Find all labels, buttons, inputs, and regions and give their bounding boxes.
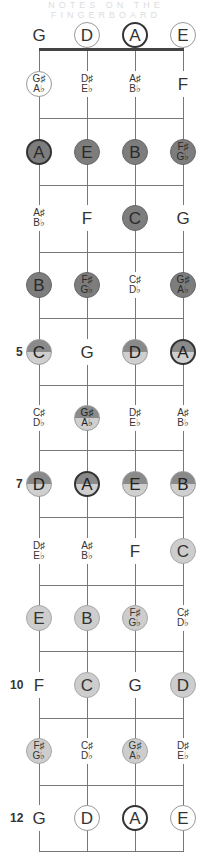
note-marker: A♯B♭ (170, 405, 196, 431)
note-marker: E (122, 471, 148, 497)
note-marker: D♯E♭ (122, 405, 148, 431)
note-marker: A♯B♭ (122, 71, 148, 97)
note-marker: D (170, 672, 196, 698)
accidental-label: G♯A♭ (81, 408, 94, 428)
note-marker: F♯G♭ (122, 605, 148, 631)
note-marker: G♯A♭ (122, 738, 148, 764)
fret-line-3 (39, 252, 184, 253)
flat-name: A♭ (81, 418, 93, 428)
note-marker: F (74, 205, 100, 231)
note-marker: B (74, 605, 100, 631)
fret-number-12: 12 (10, 811, 23, 825)
flat-name: E♭ (81, 84, 93, 94)
accidental-label: G♯A♭ (33, 74, 46, 94)
fret-number-7: 7 (16, 477, 23, 491)
accidental-label: D♯E♭ (81, 74, 93, 94)
note-marker: C♯D♭ (26, 405, 52, 431)
accidental-label: F♯G♭ (177, 142, 190, 162)
note-marker: G (74, 339, 100, 365)
accidental-label: F♯G♭ (33, 741, 46, 761)
note-marker: G (122, 672, 148, 698)
accidental-label: A♯B♭ (81, 541, 93, 561)
note-marker: D (122, 339, 148, 365)
fret-line-7 (39, 517, 184, 518)
accidental-label: A♯B♭ (129, 74, 141, 94)
note-marker: E (74, 139, 100, 165)
flat-name: A♭ (33, 84, 45, 94)
note-marker: E (170, 805, 196, 831)
flat-name: E♭ (33, 551, 45, 561)
note-marker: F♯G♭ (74, 272, 100, 298)
fret-line-11 (39, 785, 184, 786)
fret-line-4 (39, 318, 184, 319)
accidental-label: D♯E♭ (33, 541, 45, 561)
accidental-label: C♯D♭ (129, 275, 141, 295)
accidental-label: C♯D♭ (177, 608, 189, 628)
note-marker: C (26, 339, 52, 365)
note-marker: C♯D♭ (74, 738, 100, 764)
note-marker: C (122, 205, 148, 231)
note-marker: B (170, 471, 196, 497)
note-marker: A (26, 139, 52, 165)
note-marker: G (26, 22, 52, 48)
note-marker: F♯G♭ (26, 738, 52, 764)
note-marker: F (26, 672, 52, 698)
note-marker: G♯A♭ (170, 272, 196, 298)
flat-name: E♭ (129, 418, 141, 428)
fret-line-5 (39, 385, 184, 386)
note-marker: D (26, 471, 52, 497)
note-marker: E (26, 605, 52, 631)
note-marker: C (170, 538, 196, 564)
accidental-label: F♯G♭ (81, 275, 94, 295)
fret-line-1 (39, 118, 184, 119)
note-marker: A♯B♭ (74, 538, 100, 564)
note-marker: G (26, 805, 52, 831)
note-marker: B (26, 272, 52, 298)
nut (39, 48, 184, 51)
flat-name: B♭ (129, 84, 141, 94)
accidental-label: D♯E♭ (129, 408, 141, 428)
accidental-label: G♯A♭ (129, 741, 142, 761)
flat-name: D♭ (81, 751, 93, 761)
flat-name: B♭ (177, 418, 189, 428)
note-marker: F (170, 71, 196, 97)
accidental-label: G♯A♭ (177, 275, 190, 295)
flat-name: G♭ (81, 285, 94, 295)
flat-name: G♭ (33, 751, 46, 761)
accidental-label: C♯D♭ (33, 408, 45, 428)
note-marker: A (122, 22, 148, 48)
fret-line-9 (39, 651, 184, 652)
flat-name: E♭ (177, 751, 189, 761)
note-marker: A (122, 805, 148, 831)
diagram-title: NOTES ON THE FINGERBOARD (0, 0, 212, 20)
fret-number-10: 10 (10, 678, 23, 692)
note-marker: A (170, 339, 196, 365)
note-marker: A♯B♭ (26, 205, 52, 231)
fret-number-5: 5 (16, 345, 23, 359)
note-marker: C♯D♭ (122, 272, 148, 298)
fret-line-10 (39, 718, 184, 719)
flat-name: A♭ (177, 285, 189, 295)
flat-name: A♭ (129, 751, 141, 761)
note-marker: D♯E♭ (26, 538, 52, 564)
flat-name: G♭ (177, 152, 190, 162)
note-marker: G (170, 205, 196, 231)
note-marker: D♯E♭ (74, 71, 100, 97)
note-marker: F♯G♭ (170, 139, 196, 165)
flat-name: B♭ (33, 218, 45, 228)
note-marker: D♯E♭ (170, 738, 196, 764)
flat-name: D♭ (129, 285, 141, 295)
flat-name: D♭ (177, 618, 189, 628)
accidental-label: A♯B♭ (177, 408, 189, 428)
flat-name: B♭ (81, 551, 93, 561)
note-marker: F (122, 538, 148, 564)
fingerboard-diagram: NOTES ON THE FINGERBOARD 5 7 10 12 GDAEG… (0, 0, 212, 865)
fret-line-2 (39, 185, 184, 186)
accidental-label: F♯G♭ (129, 608, 142, 628)
flat-name: G♭ (129, 618, 142, 628)
fret-line-8 (39, 585, 184, 586)
note-marker: G♯A♭ (26, 71, 52, 97)
fret-line-12 (39, 851, 184, 852)
note-marker: E (170, 22, 196, 48)
accidental-label: D♯E♭ (177, 741, 189, 761)
